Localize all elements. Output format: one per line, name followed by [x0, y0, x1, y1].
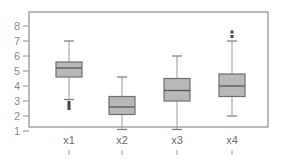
outlier-point: [68, 104, 71, 107]
box-x2: [109, 77, 135, 130]
y-tick-label: 2: [14, 110, 20, 122]
boxes: [56, 31, 245, 130]
x-tick-label: x3: [171, 134, 183, 146]
box-x3: [164, 56, 190, 130]
outlier-point: [231, 35, 234, 38]
x-tick-label: x1: [63, 134, 75, 146]
box-x4: [219, 31, 245, 117]
x-tick-label: x2: [116, 134, 128, 146]
y-tick-label: 7: [14, 35, 20, 47]
y-tick-label: 6: [14, 50, 20, 62]
y-tick-label: 4: [14, 80, 20, 92]
iqr-box: [219, 74, 245, 97]
x-tick-label: x4: [226, 134, 238, 146]
x-axis: x1x2x3x4: [63, 134, 238, 155]
box-x1: [56, 41, 82, 110]
iqr-box: [164, 79, 190, 102]
boxplot-chart: 12345678 x1x2x3x4: [0, 0, 286, 161]
y-tick-label: 3: [14, 95, 20, 107]
outlier-point: [68, 107, 71, 110]
y-tick-label: 8: [14, 20, 20, 32]
iqr-box: [56, 62, 82, 77]
iqr-box: [109, 97, 135, 115]
y-tick-label: 5: [14, 65, 20, 77]
y-tick-label: 1: [14, 125, 20, 137]
outlier-point: [231, 31, 234, 34]
y-axis: 12345678: [14, 20, 29, 137]
outlier-point: [68, 101, 71, 104]
